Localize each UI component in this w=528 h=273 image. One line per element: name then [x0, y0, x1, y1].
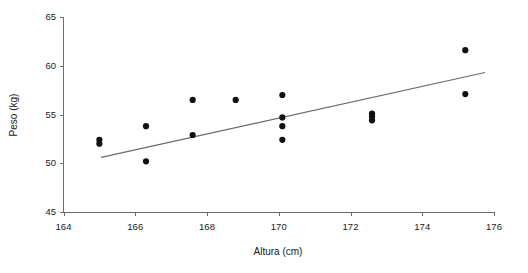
x-axis-title: Altura (cm) [254, 246, 303, 257]
data-point [279, 114, 285, 120]
y-tick-label: 55 [34, 110, 56, 120]
x-tick-label: 166 [127, 222, 143, 232]
data-point [143, 123, 149, 129]
data-point [462, 91, 468, 97]
y-ticks-group [60, 18, 64, 213]
data-point [233, 97, 239, 103]
data-point [279, 137, 285, 143]
x-tick-label: 174 [414, 222, 430, 232]
x-tick-label: 168 [199, 222, 215, 232]
data-point [96, 141, 102, 147]
data-point [190, 132, 196, 138]
y-tick-label: 60 [34, 61, 56, 71]
regression-line-group [101, 73, 485, 158]
x-tick-label: 176 [486, 222, 502, 232]
data-points-group [96, 47, 468, 164]
scatter-plot-figure: 4550556065 164166168170172174176 Peso (k… [0, 0, 528, 273]
x-tick-label: 164 [56, 222, 72, 232]
y-axis-title: Peso (kg) [8, 94, 19, 137]
data-point [279, 123, 285, 129]
x-tick-label: 172 [343, 222, 359, 232]
axes-group [64, 17, 495, 213]
data-point [279, 92, 285, 98]
y-tick-label: 50 [34, 159, 56, 169]
data-point [143, 158, 149, 164]
y-tick-label: 45 [34, 207, 56, 217]
data-point [462, 47, 468, 53]
y-tick-label: 65 [34, 12, 56, 22]
data-point [369, 117, 375, 123]
regression-line [101, 73, 485, 158]
data-point [190, 97, 196, 103]
plot-canvas [0, 0, 528, 273]
x-tick-label: 170 [271, 222, 287, 232]
